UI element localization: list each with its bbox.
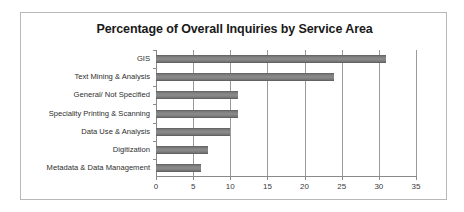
bar <box>156 55 386 63</box>
chart-title: Percentage of Overall Inquiries by Servi… <box>21 22 448 36</box>
x-tick-mark-30 <box>379 177 380 180</box>
bar <box>156 146 208 154</box>
category-label: Data Use & Analysis <box>81 128 150 136</box>
x-tick-label-30: 30 <box>367 182 391 191</box>
x-tick-label-10: 10 <box>218 182 242 191</box>
x-axis-line <box>156 176 417 177</box>
x-tick-label-35: 35 <box>404 182 428 191</box>
category-label: GIS <box>137 55 150 63</box>
gridline-x-35 <box>416 50 417 177</box>
category-label: General/ Not Specified <box>74 91 150 99</box>
gridline-x-30 <box>379 50 380 177</box>
x-tick-label-25: 25 <box>330 182 354 191</box>
bar <box>156 91 238 99</box>
category-label: Speciality Printing & Scanning <box>49 110 150 118</box>
bar <box>156 73 334 81</box>
bar <box>156 128 230 136</box>
plot-area <box>156 50 416 177</box>
chart-container: Percentage of Overall Inquiries by Servi… <box>20 12 447 200</box>
category-label: Digitization <box>113 146 150 154</box>
x-tick-mark-35 <box>416 177 417 180</box>
bar <box>156 110 238 118</box>
x-tick-mark-15 <box>267 177 268 180</box>
x-tick-label-15: 15 <box>255 182 279 191</box>
x-tick-mark-25 <box>342 177 343 180</box>
gridline-x-15 <box>267 50 268 177</box>
category-label: Metadata & Data Management <box>47 164 150 172</box>
x-tick-label-20: 20 <box>293 182 317 191</box>
x-tick-label-5: 5 <box>181 182 205 191</box>
x-tick-mark-10 <box>230 177 231 180</box>
category-label: Text Mining & Analysis <box>74 73 150 81</box>
bar <box>156 164 201 172</box>
x-tick-mark-0 <box>156 177 157 180</box>
x-tick-label-0: 0 <box>144 182 168 191</box>
x-tick-mark-20 <box>305 177 306 180</box>
gridline-x-20 <box>305 50 306 177</box>
x-tick-mark-5 <box>193 177 194 180</box>
gridline-x-25 <box>342 50 343 177</box>
